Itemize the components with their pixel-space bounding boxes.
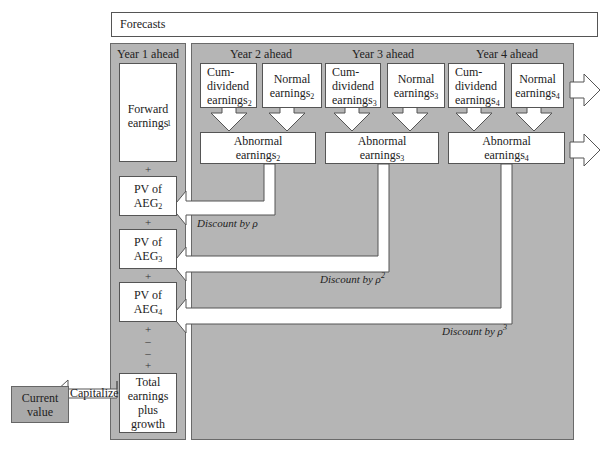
abnormal-line: earnings	[236, 148, 277, 162]
subscript: 3	[434, 92, 438, 101]
discount-label-3: Discount by ρ3	[442, 325, 507, 337]
discount-text: Discount by	[320, 273, 376, 285]
cum-line: earnings	[455, 93, 496, 107]
normal-line: earnings	[515, 86, 556, 100]
cum-line: dividend	[455, 79, 497, 93]
normal-line: Normal	[398, 72, 435, 86]
pv-label: PV of	[134, 235, 162, 249]
normal-line: earnings	[270, 86, 311, 100]
subscript: 4	[556, 92, 560, 101]
power: 2	[381, 271, 385, 280]
normal-earnings2-box: Normal earnings2	[262, 63, 322, 108]
abnormal-line: earnings	[360, 148, 401, 162]
subscript: 2	[248, 99, 252, 108]
normal-earnings4-box: Normal earnings4	[511, 63, 564, 108]
discount-label-1: Discount by ρ	[197, 217, 258, 229]
cum-line: Cum-	[455, 65, 482, 79]
normal-line: Normal	[519, 72, 556, 86]
operator: +	[138, 271, 158, 282]
cum-line: earnings	[207, 93, 248, 107]
subscript: 2	[158, 202, 162, 211]
subscript: 4	[496, 99, 500, 108]
cum-line: earnings	[332, 93, 373, 107]
year1-header: Year 1 ahead	[110, 47, 186, 61]
normal-earnings3-box: Normal earnings3	[387, 63, 445, 108]
pv-aeg3-box: PV of AEG3	[119, 229, 177, 269]
operator: –	[138, 336, 158, 347]
operator: +	[138, 324, 158, 335]
power: 3	[503, 323, 507, 332]
right-arrow-abnormal4	[570, 134, 600, 166]
cum-dividend-earnings3-box: Cum- dividend earnings3	[325, 63, 381, 108]
current-value-label: Current value	[17, 391, 63, 419]
operator: +	[138, 164, 158, 175]
abnormal-line: Abnormal	[482, 134, 531, 148]
year2-header: Year 2 ahead	[200, 47, 322, 61]
discount-text: Discount by	[442, 325, 498, 337]
subscript: 2	[276, 154, 280, 163]
abnormal-line: Abnormal	[358, 134, 407, 148]
rho-symbol: ρ	[253, 217, 258, 229]
subscript: 4	[158, 308, 162, 317]
abnormal-earnings2-box: Abnormal earnings2	[200, 132, 316, 164]
cum-line: dividend	[332, 79, 374, 93]
year3-header: Year 3 ahead	[322, 47, 444, 61]
abnormal-line: earnings	[484, 148, 525, 162]
cum-dividend-earnings2-box: Cum- dividend earnings2	[200, 63, 257, 108]
right-arrow-normal4	[570, 74, 600, 106]
total-earnings-label: Total earnings plus growth	[123, 375, 173, 431]
subscript: 3	[373, 99, 377, 108]
abnormal-earnings4-box: Abnormal earnings4	[448, 132, 565, 164]
normal-line: earnings	[394, 86, 435, 100]
aeg-label: AEG	[134, 249, 159, 263]
current-value-box: Current value	[11, 386, 69, 423]
subscript: 3	[400, 154, 404, 163]
discount-label-2: Discount by ρ2	[320, 273, 385, 285]
forward-earnings-box: Forward earnings1	[119, 63, 177, 162]
operator: +	[138, 360, 158, 371]
cum-line: Cum-	[207, 65, 234, 79]
cum-dividend-earnings4-box: Cum- dividend earnings4	[448, 63, 505, 108]
pv-label: PV of	[134, 182, 162, 196]
subscript: 2	[310, 92, 314, 101]
aeg-label: AEG	[134, 302, 159, 316]
total-earnings-box: Total earnings plus growth	[119, 373, 177, 433]
cum-line: Cum-	[332, 65, 359, 79]
subscript: 3	[158, 255, 162, 264]
abnormal-line: Abnormal	[234, 134, 283, 148]
operator: –	[138, 348, 158, 359]
cum-line: dividend	[207, 79, 249, 93]
year4-header: Year 4 ahead	[446, 47, 568, 61]
normal-line: Normal	[274, 72, 311, 86]
aeg-label: AEG	[134, 196, 159, 210]
abnormal-earnings3-box: Abnormal earnings3	[325, 132, 439, 164]
down-arrows	[211, 104, 552, 131]
pv-aeg2-box: PV of AEG2	[119, 176, 177, 216]
discount-text: Discount by	[197, 217, 253, 229]
subscript: 4	[525, 154, 529, 163]
capitalize-label: Capitalize	[70, 386, 119, 400]
operator: +	[138, 217, 158, 228]
pv-aeg4-box: PV of AEG4	[119, 282, 177, 322]
pv-label: PV of	[134, 288, 162, 302]
